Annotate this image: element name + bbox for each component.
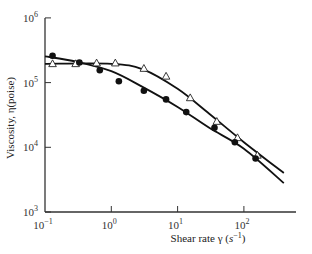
circle-marker [211, 125, 218, 132]
triangle-marker [186, 94, 194, 101]
circle-marker [252, 155, 259, 162]
circle-marker [141, 87, 148, 94]
x-axis-title: Shear rate γ (s−1) [171, 231, 246, 245]
y-tick-label: 104 [23, 139, 38, 153]
data-points [49, 52, 261, 161]
chart-figure: 10310410510610−1100101102 Shear rate γ (… [0, 0, 312, 254]
x-tick-label: 101 [168, 217, 183, 231]
fit-curve [45, 63, 284, 173]
circle-marker [76, 59, 83, 66]
y-tick-label: 106 [23, 10, 38, 24]
y-tick-label: 105 [23, 75, 38, 89]
triangle-marker [162, 72, 170, 79]
chart-svg: 10310410510610−1100101102 Shear rate γ (… [0, 0, 312, 254]
y-tick-label: 103 [23, 204, 38, 218]
triangle-marker [93, 59, 101, 66]
x-tick-label: 102 [234, 217, 249, 231]
triangle-marker [112, 59, 120, 66]
circle-marker [163, 96, 170, 103]
circle-marker [49, 52, 56, 59]
axes [45, 18, 296, 212]
circle-marker [96, 67, 103, 74]
circle-marker [183, 109, 190, 116]
circle-marker [232, 139, 239, 146]
circle-marker [116, 78, 123, 85]
x-tick-label: 10−1 [33, 217, 53, 231]
x-tick-label: 100 [102, 217, 117, 231]
y-axis-title: Viscosity, η(poise) [4, 77, 17, 159]
